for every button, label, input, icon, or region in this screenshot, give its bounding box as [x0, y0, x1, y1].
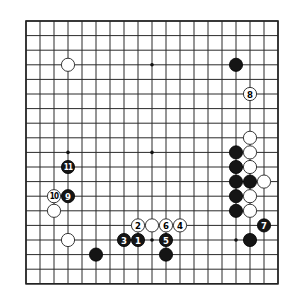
black-stone	[229, 58, 242, 71]
white-stone-icon	[61, 233, 74, 246]
white-stone	[61, 233, 74, 246]
white-stone: 2	[131, 219, 144, 232]
white-stone-icon	[243, 204, 256, 217]
star-point	[150, 63, 154, 67]
move-number: 4	[177, 220, 183, 231]
black-stone: 9	[61, 190, 74, 203]
black-stone: 3	[117, 233, 130, 246]
black-stone-icon	[229, 58, 242, 71]
black-stone-icon	[229, 204, 242, 217]
black-stone	[229, 175, 242, 188]
move-number: 8	[247, 89, 253, 100]
black-stone-icon	[229, 175, 242, 188]
black-stone	[159, 248, 172, 261]
black-stone	[229, 204, 242, 217]
white-stone-icon	[47, 204, 60, 217]
white-stone: 8	[243, 87, 256, 100]
white-stone: 10	[47, 190, 60, 203]
white-stone-icon	[243, 146, 256, 159]
move-number: 10	[50, 192, 59, 201]
black-stone-icon	[159, 248, 172, 261]
white-stone-icon	[145, 219, 158, 232]
black-stone	[229, 146, 242, 159]
white-stone	[243, 204, 256, 217]
black-stone-icon	[229, 146, 242, 159]
white-stone: 4	[173, 219, 186, 232]
black-stone-icon	[89, 248, 102, 261]
move-number: 1	[135, 235, 141, 246]
white-stone: 6	[159, 219, 172, 232]
move-number: 7	[261, 220, 267, 231]
white-stone-icon	[243, 131, 256, 144]
black-stone: 11	[61, 160, 74, 173]
white-stone-icon	[257, 175, 270, 188]
black-stone	[229, 160, 242, 173]
star-point	[234, 238, 238, 242]
black-stone-icon	[229, 160, 242, 173]
move-number: 11	[64, 163, 73, 172]
star-point	[66, 151, 70, 155]
go-board: 8119102647315	[0, 0, 295, 300]
black-stone-icon	[243, 233, 256, 246]
black-stone: 5	[159, 233, 172, 246]
star-point	[150, 151, 154, 155]
white-stone-icon	[61, 58, 74, 71]
white-stone-icon	[243, 160, 256, 173]
move-number: 2	[135, 220, 141, 231]
move-number: 5	[163, 235, 169, 246]
white-stone	[243, 160, 256, 173]
white-stone	[243, 131, 256, 144]
black-stone	[243, 175, 256, 188]
black-stone	[243, 233, 256, 246]
move-number: 3	[121, 235, 127, 246]
black-stone	[89, 248, 102, 261]
move-number: 9	[65, 191, 71, 202]
stones-layer: 8119102647315	[47, 58, 270, 261]
black-stone: 7	[257, 219, 270, 232]
black-stone: 1	[131, 233, 144, 246]
white-stone	[243, 190, 256, 203]
white-stone	[47, 204, 60, 217]
move-number: 6	[163, 220, 169, 231]
white-stone-icon	[243, 190, 256, 203]
black-stone-icon	[243, 175, 256, 188]
white-stone	[61, 58, 74, 71]
white-stone	[257, 175, 270, 188]
star-point	[150, 238, 154, 242]
white-stone	[243, 146, 256, 159]
black-stone-icon	[229, 190, 242, 203]
white-stone	[145, 219, 158, 232]
black-stone	[229, 190, 242, 203]
